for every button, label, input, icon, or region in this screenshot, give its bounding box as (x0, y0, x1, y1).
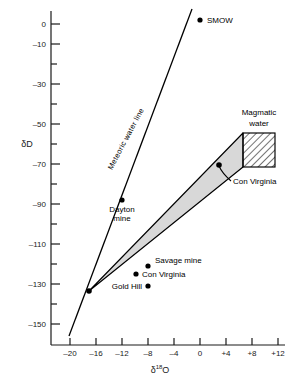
data-point-con-virginia-lower (133, 271, 138, 276)
y-tick-label: –110 (29, 240, 47, 249)
data-point-convergence (86, 288, 92, 294)
x-tick-label: –20 (63, 349, 77, 358)
x-axis-title-element: O (162, 365, 169, 375)
label-dayton-mine-line2: mine (113, 214, 131, 223)
y-tick-label: –50 (33, 120, 47, 129)
data-point-gold-hill (145, 283, 150, 288)
y-tick-label: –150 (28, 320, 46, 329)
x-tick-label: +8 (247, 349, 257, 358)
label-con-virginia-lower: Con Virginia (142, 270, 186, 279)
x-tick-label: 0 (198, 349, 203, 358)
y-tick-label: –70 (33, 160, 47, 169)
label-magmatic-water-line1: Magmatic (242, 108, 277, 117)
label-con-virginia-upper: Con Virginia (233, 177, 277, 186)
y-tick-label: –90 (33, 200, 47, 209)
scatter-plot: 0 –10 –30 –50 –70 –90 –110 –130 –150 δD … (0, 0, 297, 381)
x-tick-label: –16 (89, 349, 103, 358)
data-point-dayton-mine (119, 197, 124, 202)
data-point-savage-mine (145, 263, 150, 268)
y-tick-label: –10 (33, 40, 47, 49)
label-dayton-mine-line1: Dayton (109, 205, 134, 214)
data-point-smow (197, 17, 202, 22)
x-tick-label: –12 (115, 349, 129, 358)
y-axis-title: δD (21, 139, 33, 149)
x-tick-label: –4 (170, 349, 179, 358)
magmatic-water-box (243, 133, 275, 167)
label-magmatic-water-line2: water (248, 119, 269, 128)
y-tick-label: –130 (28, 280, 46, 289)
label-gold-hill: Gold Hill (112, 282, 142, 291)
x-tick-label: +4 (221, 349, 231, 358)
y-tick-label: –30 (33, 80, 47, 89)
x-tick-label: +12 (271, 349, 285, 358)
x-tick-label: –8 (144, 349, 153, 358)
label-savage-mine: Savage mine (155, 256, 202, 265)
y-tick-label: 0 (42, 20, 47, 29)
label-smow: SMOW (207, 16, 233, 25)
chart-figure: 0 –10 –30 –50 –70 –90 –110 –130 –150 δD … (0, 0, 297, 381)
x-axis-tick-labels: –20 –16 –12 –8 –4 0 +4 +8 +12 (63, 349, 285, 358)
